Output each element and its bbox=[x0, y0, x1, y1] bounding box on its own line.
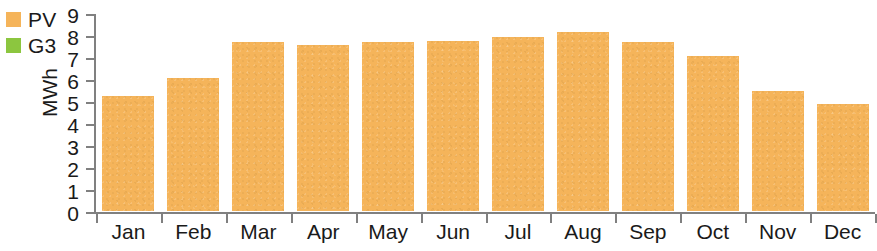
bar-slot bbox=[161, 14, 226, 211]
x-axis-label-dec: Dec bbox=[810, 221, 875, 242]
legend-swatch-pv-icon bbox=[6, 12, 21, 27]
bar-jul[interactable] bbox=[492, 37, 544, 211]
x-axis-label-oct: Oct bbox=[680, 221, 745, 242]
x-axis-label-may: May bbox=[356, 221, 421, 242]
bar-slot bbox=[96, 14, 161, 211]
y-tick-label: 9 bbox=[67, 5, 79, 26]
legend-item-pv[interactable]: PV bbox=[6, 6, 72, 32]
y-tick-label: 3 bbox=[67, 137, 79, 158]
x-axis-label-apr: Apr bbox=[291, 221, 356, 242]
x-axis-label-sep: Sep bbox=[615, 221, 680, 242]
y-tick: 4 bbox=[86, 124, 94, 126]
bar-slot bbox=[615, 14, 680, 211]
bar-slot bbox=[226, 14, 291, 211]
bar-slot bbox=[421, 14, 486, 211]
x-axis-label-nov: Nov bbox=[745, 221, 810, 242]
y-tick: 1 bbox=[86, 190, 94, 192]
bar-slot bbox=[810, 14, 875, 211]
bar-series-pv bbox=[96, 14, 875, 211]
bar-jun[interactable] bbox=[427, 41, 479, 212]
y-tick: 6 bbox=[86, 80, 94, 82]
y-tick: 7 bbox=[86, 58, 94, 60]
x-axis-labels: JanFebMarAprMayJunJulAugSepOctNovDec bbox=[96, 221, 875, 242]
bar-slot bbox=[745, 14, 810, 211]
bar-sep[interactable] bbox=[622, 42, 674, 211]
bar-slot bbox=[486, 14, 551, 211]
x-axis-label-jul: Jul bbox=[486, 221, 551, 242]
legend-swatch-g3-icon bbox=[6, 38, 21, 53]
x-axis-label-aug: Aug bbox=[550, 221, 615, 242]
bar-feb[interactable] bbox=[167, 78, 219, 211]
bar-slot bbox=[550, 14, 615, 211]
y-tick: 8 bbox=[86, 36, 94, 38]
bar-apr[interactable] bbox=[297, 45, 349, 211]
bar-mar[interactable] bbox=[232, 42, 284, 211]
x-axis-line bbox=[88, 212, 875, 214]
bar-slot bbox=[291, 14, 356, 211]
y-tick: 0 bbox=[86, 212, 94, 214]
x-axis-label-feb: Feb bbox=[161, 221, 226, 242]
y-tick-label: 5 bbox=[67, 93, 79, 114]
y-tick-label: 1 bbox=[67, 181, 79, 202]
legend-label-g3: G3 bbox=[28, 35, 56, 56]
x-axis-label-jan: Jan bbox=[96, 221, 161, 242]
y-tick: 9 bbox=[86, 14, 94, 16]
x-axis-label-mar: Mar bbox=[226, 221, 291, 242]
bar-oct[interactable] bbox=[687, 56, 739, 211]
bar-dec[interactable] bbox=[817, 104, 869, 211]
y-tick-label: 2 bbox=[67, 159, 79, 180]
y-tick-label: 6 bbox=[67, 71, 79, 92]
bar-slot bbox=[680, 14, 745, 211]
y-tick-label: 4 bbox=[67, 115, 79, 136]
y-tick-label: 8 bbox=[67, 27, 79, 48]
y-tick-label: 0 bbox=[67, 203, 79, 224]
bar-nov[interactable] bbox=[752, 91, 804, 211]
y-tick: 3 bbox=[86, 146, 94, 148]
bar-may[interactable] bbox=[362, 42, 414, 211]
y-tick-label: 7 bbox=[67, 49, 79, 70]
legend-item-g3[interactable]: G3 bbox=[6, 32, 72, 58]
plot-area: 0123456789 bbox=[94, 14, 875, 212]
chart-legend: PV G3 bbox=[6, 6, 72, 58]
legend-label-pv: PV bbox=[28, 9, 56, 30]
y-tick: 5 bbox=[86, 102, 94, 104]
bar-jan[interactable] bbox=[102, 96, 154, 212]
y-tick: 2 bbox=[86, 168, 94, 170]
x-axis-label-jun: Jun bbox=[421, 221, 486, 242]
bar-aug[interactable] bbox=[557, 32, 609, 211]
bar-slot bbox=[356, 14, 421, 211]
